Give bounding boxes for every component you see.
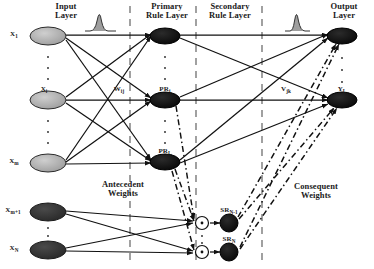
node-x1[interactable] <box>30 27 66 45</box>
network-diagram-canvas <box>0 0 374 269</box>
product-dot-1 <box>201 222 204 225</box>
product-dot-2 <box>201 251 204 254</box>
group-label-consequent-weights: Consequent Weights <box>279 182 353 200</box>
node-y1[interactable] <box>327 28 357 44</box>
node-label-srn: SRN <box>214 236 244 245</box>
node-label-xm: Xm <box>4 158 24 167</box>
node-label-xn: XN <box>4 245 24 254</box>
weight-label-v-jk: Vjk <box>276 86 296 95</box>
edge-prj-y1 <box>180 34 328 97</box>
node-label-srn1: SRN-1 <box>212 207 246 216</box>
node-xn[interactable] <box>30 241 66 259</box>
weight-w-base: W <box>114 85 121 93</box>
product-operator-nodes <box>196 217 209 259</box>
node-xm1[interactable] <box>30 203 66 221</box>
weight-label-w-ij: Wij <box>109 86 129 95</box>
consequent-dashdot-edges <box>238 44 339 249</box>
weight-w-sub: ij <box>121 88 124 94</box>
yl-sub: L <box>343 88 347 94</box>
output-layer-nodes <box>327 28 357 108</box>
node-label-prj: PRj <box>152 86 178 95</box>
srn1-sub: N-1 <box>229 209 237 215</box>
weight-v-sub: jk <box>286 88 291 94</box>
layer-title-output: Output Layer <box>318 2 370 20</box>
xn-sub: N <box>15 247 19 253</box>
antecedent-weight-edges <box>66 34 151 164</box>
xi-sub: i <box>46 88 48 94</box>
node-pr1[interactable] <box>150 28 180 44</box>
edge-prl-y1 <box>180 38 328 160</box>
node-label-x1: X1 <box>4 31 24 40</box>
primary-to-product-edges <box>172 106 194 250</box>
node-label-xi: Xi <box>34 86 54 95</box>
node-xm[interactable] <box>30 154 66 172</box>
prl-sub: L <box>168 150 172 156</box>
node-label-yl: YL <box>332 86 352 95</box>
edge-xm-prl <box>66 163 151 164</box>
edge-srn1-yl <box>239 108 334 219</box>
node-label-xm1: Xm+1 <box>0 207 26 216</box>
edge-xn-prod2 <box>66 251 193 253</box>
prj-base: PR <box>159 85 169 93</box>
bell-curve-right <box>285 15 310 32</box>
edge-pr1-yl <box>180 38 328 98</box>
edge-srn-yl <box>240 108 337 249</box>
xm-sub: m <box>14 160 18 166</box>
prl-base: PR <box>158 147 168 155</box>
node-label-prl: PRL <box>152 148 178 157</box>
layer-title-primary-rule: Primary Rule Layer <box>133 2 201 20</box>
layer-title-secondary-rule: Secondary Rule Layer <box>197 2 263 20</box>
x1-sub: 1 <box>15 33 18 39</box>
group-label-antecedent-weights: Antecedent Weights <box>86 180 160 198</box>
node-srn[interactable] <box>220 243 238 261</box>
edge-srn-y1 <box>240 44 339 247</box>
layer-title-input: Input Layer <box>40 2 92 20</box>
prj-sub: j <box>169 88 171 94</box>
srn-base: SR <box>222 235 231 243</box>
srn-sub: N <box>232 238 236 244</box>
xm1-sub: m+1 <box>10 209 20 215</box>
node-srn1[interactable] <box>220 214 238 232</box>
